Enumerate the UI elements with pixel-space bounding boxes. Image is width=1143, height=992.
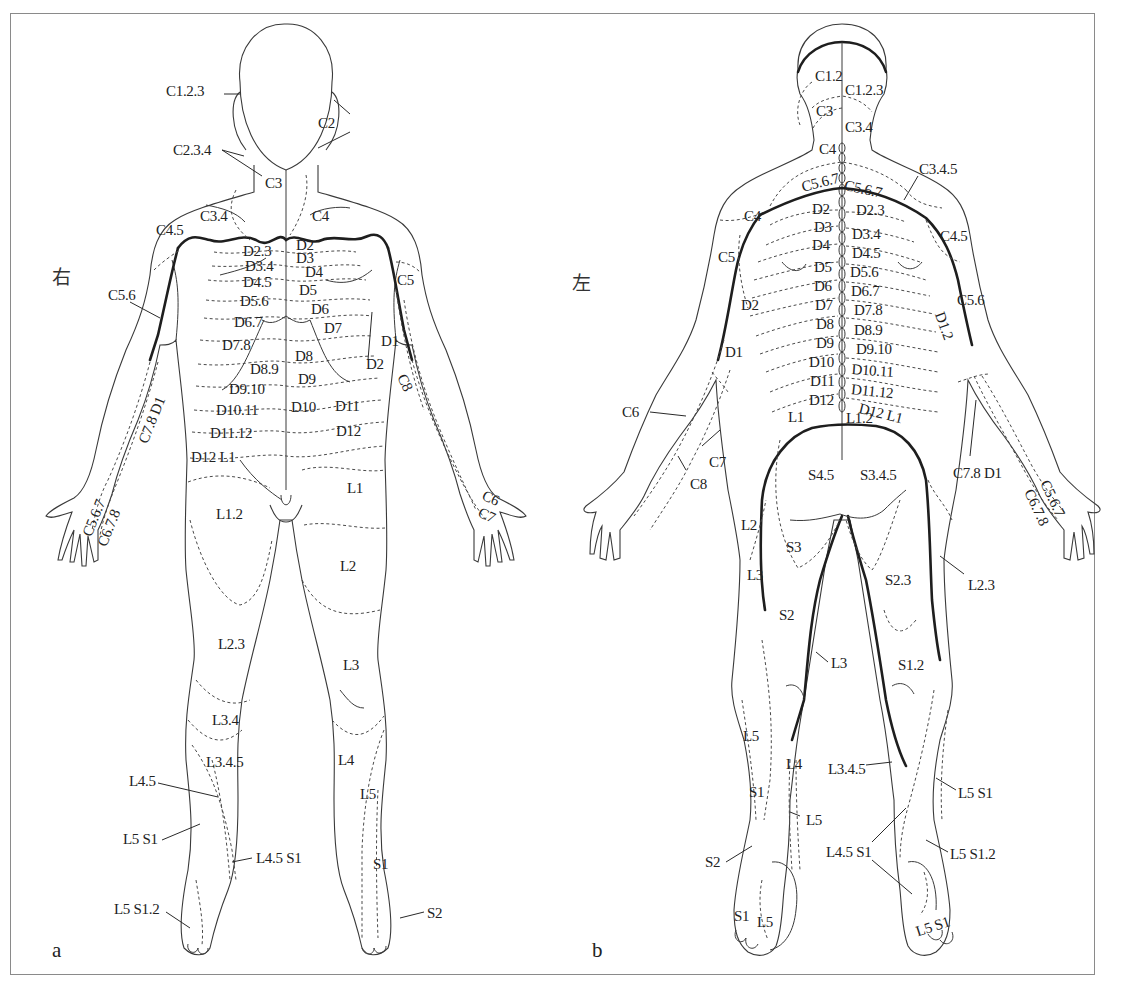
dermatome-label: D5 [814, 260, 832, 275]
dermatome-label: L3.4 [212, 713, 239, 728]
dermatome-label: L4 [338, 753, 354, 768]
dermatome-illustration [0, 0, 1143, 992]
dermatome-label: D11 [810, 374, 834, 389]
dermatome-label: S2 [427, 906, 442, 921]
dermatome-label: D6.7 [234, 315, 262, 330]
dermatome-label: D2.3 [243, 244, 271, 259]
side-label-left: 左 [572, 268, 591, 295]
dermatome-label: L2.3 [968, 578, 995, 593]
dermatome-label: C3 [816, 104, 833, 119]
dermatome-label: C1.2.3 [845, 83, 883, 98]
dermatome-label: C7 [709, 455, 726, 470]
panel-letter-a: a [52, 938, 61, 963]
dermatome-label: D9.10 [856, 342, 892, 357]
dermatome-label: D1 [381, 334, 399, 349]
dermatome-label: L5 [806, 813, 822, 828]
dermatome-label: D3.4 [852, 227, 880, 242]
dermatome-label: D2.3 [856, 203, 884, 218]
dermatome-label: D7.8 [222, 338, 250, 353]
dermatome-label: L3 [343, 658, 359, 673]
dermatome-label: S1 [749, 785, 764, 800]
dermatome-label: D6 [311, 302, 329, 317]
dermatome-label: D4 [812, 238, 830, 253]
dermatome-label: D6.7 [851, 284, 879, 299]
dermatome-label: L4.5 S1 [256, 851, 301, 866]
anterior-leader-lines [130, 94, 424, 928]
dermatome-label: L2 [741, 518, 757, 533]
dermatome-label: D12 L1 [191, 450, 235, 465]
dermatome-label: D11.12 [210, 426, 252, 441]
posterior-body-outline [584, 24, 1100, 955]
dermatome-label: L5 S1.2 [114, 902, 159, 917]
dermatome-label: D8.9 [250, 362, 278, 377]
dermatome-label: L5 S1 [123, 832, 158, 847]
dermatome-label: S2 [705, 855, 720, 870]
dermatome-label: D4 [305, 265, 323, 280]
dermatome-label: L1 [788, 410, 804, 425]
dermatome-label: C1.2 [815, 69, 843, 84]
dermatome-label: S1.2 [898, 658, 924, 673]
dermatome-label: D12 [336, 424, 361, 439]
dermatome-label: L3 [747, 568, 763, 583]
dermatome-label: L3 [831, 656, 847, 671]
dermatome-label: C4 [744, 209, 761, 224]
dermatome-label: D6 [814, 279, 832, 294]
dermatome-label: D12 [809, 393, 834, 408]
dermatome-label: S1 [734, 909, 749, 924]
dermatome-label: L2.3 [218, 637, 245, 652]
dermatome-label: C8 [690, 477, 707, 492]
dermatome-label: D11 [335, 399, 359, 414]
dermatome-label: S3 [786, 540, 801, 555]
dermatome-label: L1.2 [216, 507, 243, 522]
dermatome-label: D8 [295, 349, 313, 364]
dermatome-label: D2 [741, 298, 759, 313]
dermatome-label: L2 [340, 559, 356, 574]
dermatome-label: L5 [757, 915, 773, 930]
dermatome-label: D9.10 [229, 382, 265, 397]
dermatome-label: C6 [622, 405, 639, 420]
dermatome-label: C4.5 [156, 223, 184, 238]
dermatome-label: D9 [298, 372, 316, 387]
side-label-right: 右 [52, 262, 71, 289]
dermatome-label: L4.5 [129, 774, 156, 789]
dermatome-label: D8 [816, 317, 834, 332]
dermatome-label: D5.6 [850, 265, 878, 280]
dermatome-label: L5 [743, 729, 759, 744]
dermatome-label: C5 [718, 250, 735, 265]
dermatome-label: D3 [814, 220, 832, 235]
dermatome-label: D9 [816, 336, 834, 351]
dermatome-label: C3 [265, 176, 282, 191]
dermatome-label: C5 [397, 273, 414, 288]
dermatome-label: L4 [786, 757, 802, 772]
dermatome-label: C2 [318, 116, 335, 131]
dermatome-label: C3.4.5 [919, 162, 957, 177]
dermatome-label: D1 [725, 345, 743, 360]
dermatome-label: S1 [373, 857, 388, 872]
dermatome-label: C4 [312, 209, 329, 224]
dermatome-label: S3.4.5 [860, 468, 897, 483]
dermatome-label: D7.8 [854, 303, 882, 318]
dermatome-label: C1.2.3 [166, 84, 204, 99]
panel-letter-b: b [592, 938, 603, 963]
dermatome-label: C4 [819, 142, 836, 157]
dermatome-label: L4.5 S1 [826, 845, 871, 860]
dermatome-label: D10.11 [851, 362, 894, 380]
dermatome-label: L1 [347, 481, 363, 496]
dermatome-label: D8.9 [854, 323, 882, 338]
dermatome-label: S2 [779, 608, 794, 623]
dermatome-label: D2 [812, 202, 830, 217]
dermatome-label: S4.5 [808, 468, 834, 483]
dermatome-label: D4.5 [243, 275, 271, 290]
dermatome-label: D3.4 [245, 259, 273, 274]
dermatome-label: D10 [291, 400, 316, 415]
dermatome-label: L3.4.5 [828, 762, 865, 777]
dermatome-label: C3.4 [845, 120, 873, 135]
dermatome-label: D10.11 [216, 403, 258, 418]
dermatome-label: L5 S1.2 [950, 847, 995, 862]
dermatome-label: D7 [815, 298, 833, 313]
dermatome-label: C5.6 [108, 288, 136, 303]
dermatome-label: S2.3 [885, 573, 911, 588]
dermatome-label: C7.8 D1 [953, 466, 1002, 481]
anterior-body-outline [46, 24, 526, 955]
dermatome-label: D5 [299, 283, 317, 298]
